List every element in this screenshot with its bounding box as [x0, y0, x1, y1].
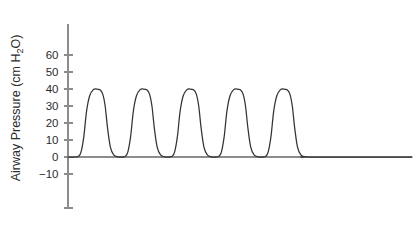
y-tick-label-30: 30 [46, 100, 59, 112]
y-tick-label-50: 50 [46, 66, 59, 78]
y-tick-label-0: 0 [52, 151, 58, 163]
airway-pressure-chart: 6050403020100−10 Airway Pressure (cm H2O… [0, 0, 417, 226]
y-tick-label-60: 60 [46, 49, 59, 61]
y-tick-label-40: 40 [46, 83, 59, 95]
y-axis-group: 6050403020100−10 [39, 24, 73, 208]
y-tick-label--10: −10 [39, 168, 59, 180]
y-axis-tick-labels: 6050403020100−10 [39, 49, 59, 180]
series-group [68, 89, 412, 157]
y-tick-label-20: 20 [46, 117, 59, 129]
airway-pressure-trace [68, 89, 412, 157]
y-axis-title: Airway Pressure (cm H2O) [9, 35, 25, 182]
y-axis-title-group: Airway Pressure (cm H2O) [9, 35, 25, 182]
y-tick-label-10: 10 [46, 134, 59, 146]
chart-canvas: 6050403020100−10 Airway Pressure (cm H2O… [0, 0, 417, 226]
